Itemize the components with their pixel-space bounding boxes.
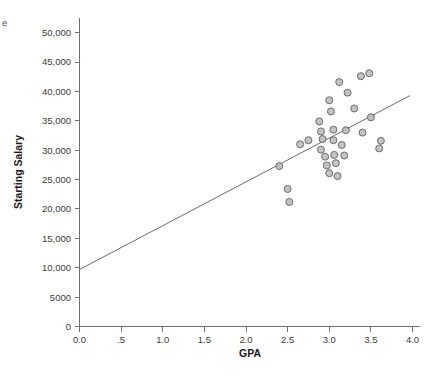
y-tick-label: 50,000 xyxy=(42,27,71,38)
y-tick-label: 15,000 xyxy=(42,233,71,244)
data-point xyxy=(317,128,324,135)
data-point xyxy=(377,137,384,144)
y-tick-label: 40,000 xyxy=(42,86,71,97)
data-point xyxy=(330,126,337,133)
x-tick-label: 0.0 xyxy=(73,334,86,345)
x-axis: 0.0.51.01.52.02.53.03.54.0 xyxy=(73,327,419,346)
y-tick-label: 20,000 xyxy=(42,203,71,214)
data-point xyxy=(327,108,334,115)
y-axis-title: Starting Salary xyxy=(12,135,24,209)
x-tick-label: 2.5 xyxy=(281,334,294,345)
data-point xyxy=(376,145,383,152)
y-tick-label: 0 xyxy=(66,321,71,332)
y-tick-label: 5000 xyxy=(50,292,71,303)
clipped-corner-text: e xyxy=(2,17,7,28)
data-point xyxy=(326,97,333,104)
y-tick-label: 30,000 xyxy=(42,145,71,156)
data-point xyxy=(297,141,304,148)
x-tick-label: 4.0 xyxy=(406,334,419,345)
data-point xyxy=(359,129,366,136)
data-point xyxy=(344,89,351,96)
y-axis: 0500010,00015,00020,00025,00030,00035,00… xyxy=(42,27,80,332)
data-point xyxy=(305,137,312,144)
data-point xyxy=(317,146,324,153)
data-point xyxy=(366,70,373,77)
y-tick-label: 35,000 xyxy=(42,115,71,126)
regression-line-group xyxy=(80,96,411,270)
y-tick-label: 45,000 xyxy=(42,56,71,67)
data-point xyxy=(276,163,283,170)
data-point xyxy=(334,173,341,180)
data-point xyxy=(284,185,291,192)
x-tick-label: 1.0 xyxy=(156,334,169,345)
data-point xyxy=(286,198,293,205)
data-point xyxy=(330,137,337,144)
data-point xyxy=(319,136,326,143)
clipped-corner-text-group: e xyxy=(2,17,7,28)
data-point xyxy=(342,127,349,134)
data-point xyxy=(326,170,333,177)
y-tick-label: 25,000 xyxy=(42,174,71,185)
scatter-plot-figure: e 0500010,00015,00020,00025,00030,00035,… xyxy=(0,0,433,382)
x-tick-label: .5 xyxy=(117,334,125,345)
regression-line xyxy=(80,96,411,270)
x-tick-label: 3.5 xyxy=(364,334,377,345)
x-tick-label: 3.0 xyxy=(323,334,336,345)
x-tick-label: 1.5 xyxy=(198,334,211,345)
data-point xyxy=(331,151,338,158)
data-point xyxy=(338,141,345,148)
data-point xyxy=(316,118,323,125)
data-point xyxy=(351,105,358,112)
data-point xyxy=(332,160,339,167)
data-point xyxy=(341,152,348,159)
plot-canvas: e 0500010,00015,00020,00025,00030,00035,… xyxy=(0,0,433,382)
data-point xyxy=(322,153,329,160)
y-tick-label: 10,000 xyxy=(42,262,71,273)
data-point xyxy=(367,114,374,121)
data-point xyxy=(357,73,364,80)
data-point xyxy=(336,79,343,86)
x-tick-label: 2.0 xyxy=(239,334,252,345)
data-point xyxy=(323,162,330,169)
x-axis-title: GPA xyxy=(239,347,261,359)
